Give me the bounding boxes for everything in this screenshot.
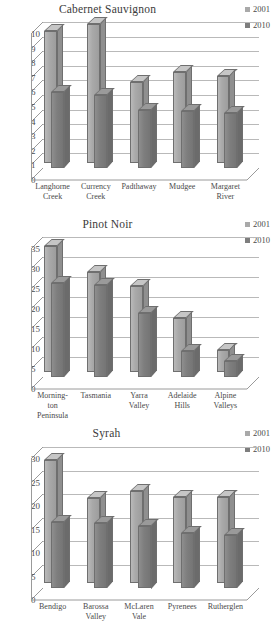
bar-front-face [138, 110, 151, 168]
x-axis-category-label: CurrencyCreek [74, 182, 117, 202]
x-axis-category-line: River [204, 192, 247, 202]
bar-2010 [224, 361, 237, 377]
legend-label-2001: 2001 [253, 220, 270, 229]
bar-group [161, 447, 204, 588]
bar-layer [31, 237, 259, 377]
x-axis-category-label: Rutherglen [204, 602, 247, 612]
bar-layer [31, 447, 259, 588]
bar-group [161, 237, 204, 377]
bar-group [31, 237, 74, 377]
x-axis-category-label: AdelaideHills [161, 391, 204, 411]
bar-side-face [151, 519, 157, 588]
bar-side-face [194, 526, 200, 588]
bar-side-face [237, 528, 243, 588]
x-axis-category-line: Tasmania [74, 391, 117, 401]
x-axis-category-label: MargaretRiver [204, 182, 247, 202]
bar-front-face [138, 526, 151, 589]
x-axis-category-label: Pyrenees [161, 602, 204, 612]
x-axis-category-line: McLaren [117, 602, 160, 612]
bar-group [204, 447, 247, 588]
x-axis-category-line: Margaret [204, 182, 247, 192]
bar-2010 [51, 522, 64, 588]
x-axis-category-label: Padthaway [117, 182, 160, 192]
bar-side-face [237, 106, 243, 168]
bar-2010 [181, 351, 194, 377]
bar-front-face [181, 111, 194, 168]
bar-front-face [138, 313, 151, 377]
legend-swatch-2001 [245, 222, 250, 227]
x-axis-category-line: Valley [74, 612, 117, 622]
x-axis-category-line: Pyrenees [161, 602, 204, 612]
bar-side-face [64, 85, 70, 168]
x-axis-category-line: ton [31, 401, 74, 411]
x-axis-category-line: Valleys [204, 401, 247, 411]
bar-front-face [51, 92, 64, 168]
x-axis-category-line: Rutherglen [204, 602, 247, 612]
bar-2010 [138, 110, 151, 168]
bar-2010 [224, 113, 237, 168]
x-axis-category-label: AlpineValleys [204, 391, 247, 411]
x-axis-category-line: Peninsula [31, 411, 74, 421]
bar-front-face [51, 283, 64, 377]
chart-title: Cabernet Sauvignon [0, 3, 273, 15]
bar-side-face [64, 276, 70, 377]
bar-group [117, 237, 160, 377]
x-axis-category-line: Adelaide [161, 391, 204, 401]
bar-group [31, 22, 74, 168]
bar-side-face [194, 344, 200, 377]
x-axis-category-line: Langhorne [31, 182, 74, 192]
bar-2010 [94, 285, 107, 377]
bar-front-face [181, 351, 194, 377]
legend-label-2001: 2001 [253, 5, 270, 14]
legend-label-2001: 2001 [253, 429, 270, 438]
x-axis-category-label: YarraValley [117, 391, 160, 411]
bar-group [31, 447, 74, 588]
bar-layer [31, 22, 259, 168]
chart-panel-syrah: Syrah 2001 2010 051015202530 BendigoBaro… [0, 423, 273, 638]
bar-2010 [51, 283, 64, 377]
x-axis-category-line: Bendigo [31, 602, 74, 612]
x-axis-category-line: Alpine [204, 391, 247, 401]
bar-group [204, 237, 247, 377]
legend-item: 2001 [245, 220, 270, 229]
x-axis-category-line: Vale [117, 612, 160, 622]
bar-2010 [224, 535, 237, 588]
bar-2010 [51, 92, 64, 168]
x-axis-category-label: McLarenVale [117, 602, 160, 622]
bar-2010 [181, 533, 194, 588]
chart-panel-cabernet-sauvignon: Cabernet Sauvignon 2001 2010 01234567891… [0, 0, 273, 215]
x-axis-category-line: Barossa [74, 602, 117, 612]
bar-side-face [151, 306, 157, 377]
bar-2010 [94, 523, 107, 588]
legend-swatch-2001 [245, 431, 250, 436]
axis-floor [31, 377, 259, 389]
chart-title: Pinot Noir [0, 218, 273, 230]
plot-area: 012345678910 [31, 22, 259, 180]
x-axis-category-label: BarossaValley [74, 602, 117, 622]
bar-side-face [194, 104, 200, 168]
bar-side-face [151, 103, 157, 168]
x-axis-category-label: LanghorneCreek [31, 182, 74, 202]
bar-group [74, 237, 117, 377]
bar-2010 [138, 313, 151, 377]
x-axis-category-label: Bendigo [31, 602, 74, 612]
bar-group [74, 22, 117, 168]
bar-front-face [94, 285, 107, 377]
legend-swatch-2001 [245, 7, 250, 12]
x-axis-category-line: Creek [31, 192, 74, 202]
x-axis-category-label: Tasmania [74, 391, 117, 401]
bar-2010 [138, 526, 151, 589]
bar-front-face [51, 522, 64, 588]
x-axis-category-line: Yarra [117, 391, 160, 401]
bar-2010 [94, 95, 107, 168]
bar-2010 [181, 111, 194, 168]
chart-title: Syrah [0, 427, 273, 439]
x-axis-category-label: Mudgee [161, 182, 204, 192]
bar-group [117, 447, 160, 588]
x-axis-category-line: Currency [74, 182, 117, 192]
legend-item: 2001 [245, 5, 270, 14]
bar-group [161, 22, 204, 168]
bar-front-face [94, 523, 107, 588]
x-axis-category-line: Valley [117, 401, 160, 411]
plot-area: 051015202530 [31, 447, 259, 600]
